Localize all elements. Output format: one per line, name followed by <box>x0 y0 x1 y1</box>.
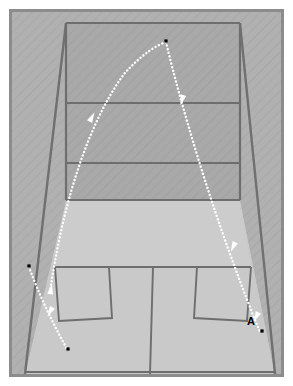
apex-dot <box>164 39 167 42</box>
end-dot-left-floor <box>66 347 69 350</box>
origin-dot-left-wall <box>27 264 30 267</box>
figure-frame: A <box>9 9 284 377</box>
squash-court-diagram <box>12 12 281 374</box>
point-label-a: A <box>247 316 255 327</box>
impact-dot-right <box>260 329 263 332</box>
figure-canvas: A <box>0 0 293 386</box>
